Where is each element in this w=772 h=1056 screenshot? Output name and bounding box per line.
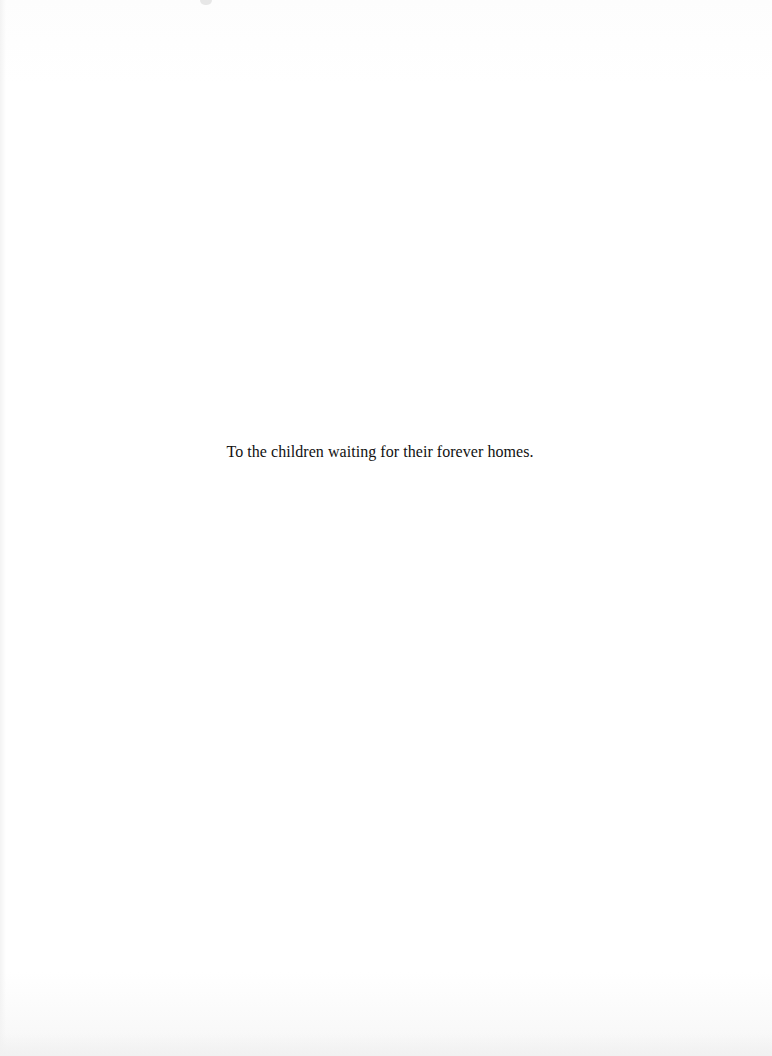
book-page: To the children waiting for their foreve…: [0, 0, 772, 1056]
dedication-text: To the children waiting for their foreve…: [0, 442, 760, 462]
scan-artifact: [200, 0, 212, 5]
